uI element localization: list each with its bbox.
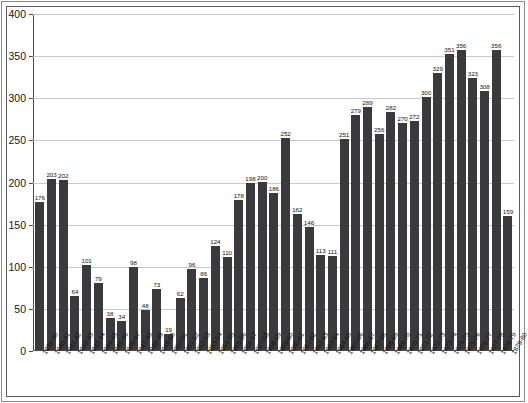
x-label-slot: 1853-54 xyxy=(198,352,210,400)
bar-slot: 198 xyxy=(245,14,257,350)
bar-value-label: 289 xyxy=(362,99,372,106)
y-axis-tick xyxy=(29,309,33,310)
x-label-slot: 1865-66 xyxy=(339,352,351,400)
bar-slot: 162 xyxy=(291,14,303,350)
bar-slot: 202 xyxy=(57,14,69,350)
y-axis-tick xyxy=(29,56,33,57)
x-label-slot: 1875-76 xyxy=(456,352,468,400)
bar-value-label: 203 xyxy=(46,171,56,178)
bar-slot: 73 xyxy=(151,14,163,350)
bar-slot: 111 xyxy=(327,14,339,350)
bar-value-label: 300 xyxy=(421,89,431,96)
bar-value-label: 198 xyxy=(245,175,255,182)
bar-slot: 79 xyxy=(93,14,105,350)
x-label-slot: 1848-49 xyxy=(140,352,152,400)
bar: 308 xyxy=(480,91,489,350)
x-label-slot: 1872-73 xyxy=(421,352,433,400)
x-label-slot: 1849-50 xyxy=(151,352,163,400)
bar: 186 xyxy=(269,193,278,350)
bar-slot: 62 xyxy=(174,14,186,350)
bar-value-label: 98 xyxy=(130,259,137,266)
x-label-slot: 1869-70 xyxy=(386,352,398,400)
bar-value-label: 73 xyxy=(153,281,160,288)
bar-slot: 203 xyxy=(46,14,58,350)
bar-value-label: 252 xyxy=(280,130,290,137)
bar: 329 xyxy=(433,73,442,350)
bar-slot: 351 xyxy=(444,14,456,350)
y-axis-tick xyxy=(29,225,33,226)
bar-value-label: 270 xyxy=(397,115,407,122)
y-axis-tick xyxy=(29,267,33,268)
x-label-slot: 1847-48 xyxy=(128,352,140,400)
bar-value-label: 159 xyxy=(503,208,513,215)
bar-value-label: 186 xyxy=(269,185,279,192)
bar: 270 xyxy=(398,123,407,350)
x-label-slot: 1842-43 xyxy=(69,352,81,400)
bar: 162 xyxy=(293,214,302,350)
bar-value-label: 110 xyxy=(222,249,232,256)
bar-slot: 48 xyxy=(139,14,151,350)
bar-value-label: 79 xyxy=(95,275,102,282)
y-axis-tick-label: 50 xyxy=(14,303,26,315)
x-label-slot: 1857-58 xyxy=(245,352,257,400)
bar-value-label: 356 xyxy=(491,42,501,49)
y-axis-tick-label: 100 xyxy=(8,261,26,273)
x-label-slot: 1858-59 xyxy=(257,352,269,400)
x-label-slot: 1863-64 xyxy=(316,352,328,400)
bar-slot: 256 xyxy=(373,14,385,350)
x-label-slot: 1851-52 xyxy=(175,352,187,400)
x-label-slot: 1878-79 xyxy=(492,352,504,400)
bar-value-label: 34 xyxy=(118,313,125,320)
y-axis-tick xyxy=(29,140,33,141)
bar-value-label: 96 xyxy=(189,261,196,268)
bar-value-label: 202 xyxy=(58,172,68,179)
bar: 356 xyxy=(492,50,501,350)
bar-value-label: 38 xyxy=(107,310,114,317)
x-label-slot: 1839-40 xyxy=(34,352,46,400)
x-label-slot: 1871-72 xyxy=(410,352,422,400)
bar-value-label: 323 xyxy=(468,70,478,77)
bar: 251 xyxy=(340,139,349,350)
bar-slot: 282 xyxy=(385,14,397,350)
bar-slot: 19 xyxy=(163,14,175,350)
bar-value-label: 48 xyxy=(142,302,149,309)
y-axis-tick-label: 200 xyxy=(8,177,26,189)
bar: 300 xyxy=(422,97,431,350)
bar-value-label: 64 xyxy=(72,288,79,295)
bar-slot: 300 xyxy=(420,14,432,350)
bar-value-label: 256 xyxy=(374,126,384,133)
x-axis-tick-labels: 1839-401840-411841-421842-431843-441844-… xyxy=(34,352,515,400)
bar-slot: 159 xyxy=(502,14,514,350)
bar-value-label: 62 xyxy=(177,290,184,297)
bar-value-label: 251 xyxy=(339,131,349,138)
x-label-slot: 1840-41 xyxy=(46,352,58,400)
bar-slot: 101 xyxy=(81,14,93,350)
x-label-slot: 1841-42 xyxy=(57,352,69,400)
y-axis-tick-label: 350 xyxy=(8,50,26,62)
bar-slot: 124 xyxy=(210,14,222,350)
y-axis-tick-label: 250 xyxy=(8,134,26,146)
bar: 176 xyxy=(35,202,44,350)
bar-slot: 146 xyxy=(303,14,315,350)
x-label-slot: 1862-63 xyxy=(304,352,316,400)
x-label-slot: 1846-47 xyxy=(116,352,128,400)
x-label-slot: 1860-61 xyxy=(280,352,292,400)
bar-slot: 86 xyxy=(198,14,210,350)
bar-slot: 270 xyxy=(397,14,409,350)
bar-slot: 186 xyxy=(268,14,280,350)
bar-slot: 356 xyxy=(455,14,467,350)
x-label-slot: 1876-77 xyxy=(468,352,480,400)
bar-value-label: 178 xyxy=(234,192,244,199)
bar: 279 xyxy=(351,115,360,350)
bar-value-label: 272 xyxy=(409,113,419,120)
x-label-slot: 1854-55 xyxy=(210,352,222,400)
bar: 200 xyxy=(258,182,267,351)
bar-slot: 110 xyxy=(221,14,233,350)
bar: 252 xyxy=(281,138,290,350)
x-label-slot: 1877-78 xyxy=(480,352,492,400)
y-axis-tick xyxy=(29,14,33,15)
bar-value-label: 162 xyxy=(292,206,302,213)
bar: 159 xyxy=(503,216,512,350)
x-label-slot: 1873-74 xyxy=(433,352,445,400)
x-label-slot: 1855-56 xyxy=(222,352,234,400)
